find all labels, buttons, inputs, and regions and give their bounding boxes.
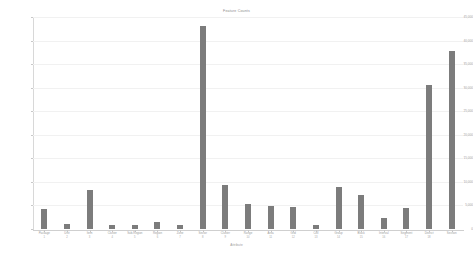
bar[interactable] [358,195,364,229]
y-axis-tick-mark [31,158,33,159]
y-axis-tick-mark [31,17,33,18]
y-axis-tick-mark [31,205,33,206]
bar[interactable] [268,206,274,229]
y-axis-tick-label: 40,000 [447,39,473,43]
x-axis-tick-sublabel: 14 [337,236,340,239]
bar[interactable] [381,218,387,229]
x-axis-tick-sublabel: 10 [247,236,250,239]
bar[interactable] [336,187,342,229]
bar[interactable] [132,225,138,229]
plot-area [33,17,463,229]
gridline [33,135,463,136]
gridline [33,111,463,112]
x-axis-tick-sublabel: 2 [66,236,68,239]
bar[interactable] [245,204,251,229]
bar[interactable] [177,225,183,229]
gridline [33,64,463,65]
x-axis-title: Attribute [0,243,473,247]
bar[interactable] [87,190,93,229]
x-axis-tick-sublabel: 3 [89,236,91,239]
gridline [33,88,463,89]
bar[interactable] [109,225,115,229]
gridline [33,17,463,18]
bar[interactable] [313,225,319,229]
x-axis-tick-sublabel: 16 [382,236,385,239]
x-axis-tick-sublabel: 13 [314,236,317,239]
bar[interactable] [449,51,455,229]
y-axis-tick-mark [31,111,33,112]
x-axis-tick-sublabel: 8 [202,236,204,239]
bar[interactable] [200,26,206,229]
x-axis-tick-sublabel: 12 [292,236,295,239]
x-axis-tick-sublabel: 5 [134,236,136,239]
x-axis-tick-sublabel: 4 [111,236,113,239]
y-axis-tick-mark [31,41,33,42]
bar-chart: Feature Counts 05,00010,00015,00020,0002… [0,0,473,263]
bar[interactable] [154,222,160,229]
bar[interactable] [222,185,228,229]
x-axis-tick-sublabel: 17 [405,236,408,239]
y-axis-tick-mark [31,88,33,89]
x-axis-tick-sublabel: 6 [157,236,159,239]
x-axis-tick-sublabel: 9 [225,236,227,239]
chart-title: Feature Counts [0,9,473,14]
y-axis-tick-label: 45,000 [447,15,473,19]
gridline [33,41,463,42]
gridline [33,158,463,159]
bar[interactable] [64,224,70,229]
y-axis-tick-mark [31,135,33,136]
bar[interactable] [403,208,409,229]
y-axis-tick-mark [31,64,33,65]
bar[interactable] [41,209,47,229]
x-axis-tick-sublabel: 18 [428,236,431,239]
y-axis-tick-mark [31,229,33,230]
y-axis-tick-mark [31,182,33,183]
bar[interactable] [426,85,432,229]
x-axis-tick-sublabel: 15 [360,236,363,239]
gridline [33,182,463,183]
x-axis-tick-sublabel: 7 [179,236,181,239]
x-axis-tick-sublabel: 11 [269,236,272,239]
x-axis-tick-label: Section [447,232,457,236]
bar[interactable] [290,207,296,229]
x-axis-tick-sublabel: 1 [44,236,46,239]
